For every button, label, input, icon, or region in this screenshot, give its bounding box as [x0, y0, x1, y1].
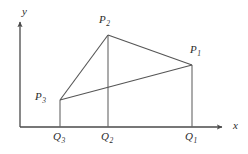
point-label-p3-subscript: 3 — [42, 96, 46, 105]
ordinate-lines-group — [60, 35, 192, 127]
point-label-p2: P2 — [99, 14, 110, 25]
diagram-svg — [0, 0, 248, 154]
foot-label-q1: Q1 — [185, 131, 197, 142]
segment-p2-p1 — [108, 35, 192, 65]
point-label-p2-letter: P — [99, 13, 106, 25]
figure-canvas: x y P1 P2 P3 Q1 Q2 Q3 — [0, 0, 248, 154]
y-axis-label: y — [22, 6, 27, 17]
foot-label-q2-letter: Q — [101, 130, 109, 142]
foot-label-q2: Q2 — [101, 131, 113, 142]
point-label-p1: P1 — [190, 44, 201, 55]
profile-segments-group — [60, 35, 192, 100]
point-label-p1-letter: P — [190, 43, 197, 55]
point-label-p2-subscript: 2 — [106, 19, 110, 28]
foot-label-q1-letter: Q — [185, 130, 193, 142]
foot-label-q1-subscript: 1 — [193, 136, 197, 145]
foot-label-q3-subscript: 3 — [61, 136, 65, 145]
point-label-p1-subscript: 1 — [197, 49, 201, 58]
point-label-p3-letter: P — [35, 90, 42, 102]
foot-label-q3: Q3 — [53, 131, 65, 142]
foot-label-q3-letter: Q — [53, 130, 61, 142]
foot-label-q2-subscript: 2 — [109, 136, 113, 145]
segment-p3-p1 — [60, 65, 192, 100]
segment-p3-p2 — [60, 35, 108, 100]
point-label-p3: P3 — [35, 91, 46, 102]
x-axis-label: x — [233, 120, 238, 131]
